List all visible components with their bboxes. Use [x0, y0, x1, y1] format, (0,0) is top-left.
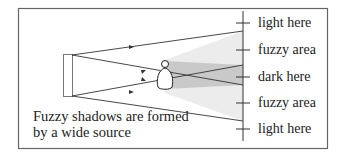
label-light-top: light here: [258, 15, 311, 31]
caption-line-2: by a wide source: [33, 124, 131, 141]
wide-light-source: [64, 55, 73, 97]
caption-line-1: Fuzzy shadows are formed: [33, 108, 189, 125]
label-dark: dark here: [258, 69, 310, 85]
label-light-bottom: light here: [258, 121, 311, 137]
umbra-region: [165, 61, 243, 89]
person-head: [162, 61, 169, 68]
label-fuzzy-top: fuzzy area: [258, 42, 316, 58]
label-fuzzy-bottom: fuzzy area: [258, 95, 316, 111]
